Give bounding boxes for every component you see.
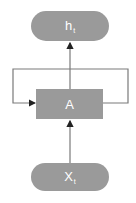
rnn-cell-a: A <box>36 89 103 119</box>
input-label: Xt <box>64 170 76 185</box>
cell-label: A <box>65 98 74 111</box>
output-node-h-t: ht <box>31 11 109 41</box>
output-label: ht <box>65 19 75 34</box>
input-node-x-t: Xt <box>31 163 109 191</box>
